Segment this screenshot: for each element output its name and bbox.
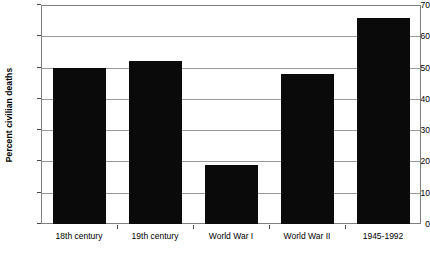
x-tick-mark — [117, 225, 118, 229]
bar — [357, 18, 410, 224]
x-tick-mark — [193, 225, 194, 229]
bar — [129, 61, 182, 224]
x-tick-label: World War II — [284, 232, 331, 241]
x-tick-label: World War I — [209, 232, 253, 241]
bar — [281, 74, 334, 224]
bar-chart: Percent civilian deaths 010203040506070 … — [0, 0, 430, 261]
bars-layer — [41, 5, 421, 224]
x-tick-mark — [269, 225, 270, 229]
x-tick-label: 18th century — [56, 232, 103, 241]
x-tick-mark — [345, 225, 346, 229]
x-tick-label: 1945-1992 — [363, 232, 404, 241]
bar — [53, 68, 106, 224]
y-axis-title-label: Percent civilian deaths — [4, 68, 14, 162]
x-tick-label: 19th century — [132, 232, 179, 241]
bar — [205, 165, 258, 224]
y-axis-title: Percent civilian deaths — [0, 0, 18, 230]
